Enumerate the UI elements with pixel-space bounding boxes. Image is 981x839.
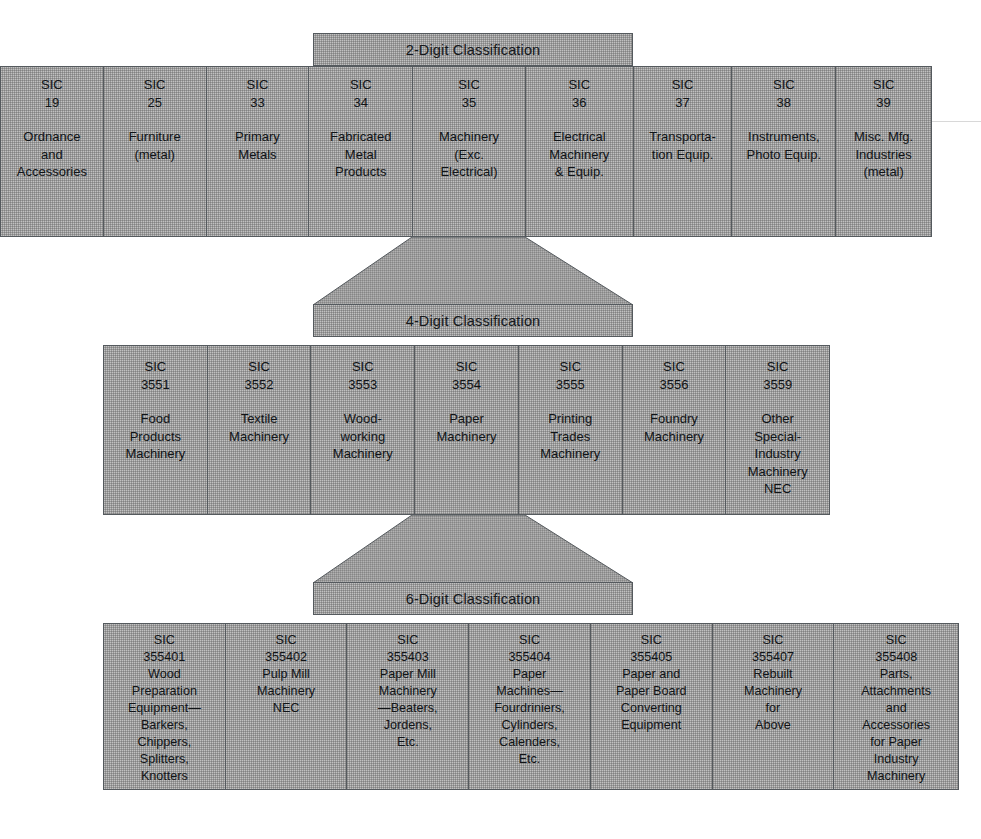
sic-code: SIC 19 (1, 76, 103, 111)
sic-code: SIC 355407 (713, 632, 834, 666)
sic-name: Electrical Machinery & Equip. (526, 128, 633, 181)
connector-4digit-to-6digit (313, 515, 633, 583)
sic-name: Misc. Mfg. Industries (metal) (836, 128, 931, 181)
sic-name: Pulp Mill Machinery NEC (226, 666, 347, 717)
sic-name: Other Special- Industry Machinery NEC (726, 410, 829, 498)
sic-code: SIC 34 (309, 76, 412, 111)
cell-sic-355402[interactable]: SIC 355402 Pulp Mill Machinery NEC (226, 624, 348, 789)
sic-code: SIC 3552 (208, 358, 311, 393)
sic-name: Furniture (metal) (104, 128, 206, 163)
banner-2-digit-classification: 2-Digit Classification (313, 33, 633, 66)
sic-name: Paper Machines— Fourdriniers, Cylinders,… (469, 666, 590, 768)
banner-label: 4-Digit Classification (406, 313, 541, 329)
sic-code: SIC 3553 (311, 358, 414, 393)
sic-code: SIC 355408 (834, 632, 958, 666)
banner-label: 6-Digit Classification (406, 591, 541, 607)
cell-sic-3554[interactable]: SIC 3554 Paper Machinery (415, 346, 519, 514)
sic-name: Wood- working Machinery (311, 410, 414, 463)
row-6-digit-cells: SIC 355401 Wood Preparation Equipment— B… (103, 623, 959, 790)
cell-sic-35[interactable]: SIC 35 Machinery (Exc. Electrical) (413, 67, 526, 236)
sic-code: SIC 39 (836, 76, 931, 111)
sic-code: SIC 38 (732, 76, 835, 111)
sic-name: Food Products Machinery (104, 410, 207, 463)
sic-code: SIC 3554 (415, 358, 518, 393)
banner-4-digit-classification: 4-Digit Classification (313, 304, 633, 337)
sic-code: SIC 36 (526, 76, 633, 111)
banner-label: 2-Digit Classification (406, 42, 541, 58)
sic-classification-diagram: 2-Digit Classification SIC 19 Ordnance a… (0, 0, 981, 839)
sic-code: SIC 355405 (591, 632, 712, 666)
banner-6-digit-classification: 6-Digit Classification (313, 582, 633, 615)
cell-sic-355407[interactable]: SIC 355407 Rebuilt Machinery for Above (713, 624, 835, 789)
sic-name: Paper and Paper Board Converting Equipme… (591, 666, 712, 734)
sic-name: Textile Machinery (208, 410, 311, 445)
sic-name: Printing Trades Machinery (519, 410, 622, 463)
cell-sic-3559[interactable]: SIC 3559 Other Special- Industry Machine… (726, 346, 829, 514)
sic-code: SIC 3559 (726, 358, 829, 393)
cell-sic-355408[interactable]: SIC 355408 Parts, Attachments and Access… (834, 624, 958, 789)
sic-code: SIC 355401 (104, 632, 225, 666)
cell-sic-355401[interactable]: SIC 355401 Wood Preparation Equipment— B… (104, 624, 226, 789)
sic-code: SIC 355404 (469, 632, 590, 666)
sic-code: SIC 3556 (623, 358, 726, 393)
cell-sic-37[interactable]: SIC 37 Transporta- tion Equip. (634, 67, 733, 236)
cell-sic-355404[interactable]: SIC 355404 Paper Machines— Fourdriniers,… (469, 624, 591, 789)
cell-sic-33[interactable]: SIC 33 Primary Metals (207, 67, 310, 236)
sic-name: Ordnance and Accessories (1, 128, 103, 181)
cell-sic-355403[interactable]: SIC 355403 Paper Mill Machinery —Beaters… (347, 624, 469, 789)
sic-name: Instruments, Photo Equip. (732, 128, 835, 163)
cell-sic-3556[interactable]: SIC 3556 Foundry Machinery (623, 346, 727, 514)
sic-code: SIC 37 (634, 76, 732, 111)
cell-sic-3551[interactable]: SIC 3551 Food Products Machinery (104, 346, 208, 514)
sic-name: Primary Metals (207, 128, 309, 163)
cell-sic-3555[interactable]: SIC 3555 Printing Trades Machinery (519, 346, 623, 514)
cell-sic-39[interactable]: SIC 39 Misc. Mfg. Industries (metal) (836, 67, 931, 236)
cell-sic-36[interactable]: SIC 36 Electrical Machinery & Equip. (526, 67, 634, 236)
sic-code: SIC 33 (207, 76, 309, 111)
sic-name: Paper Machinery (415, 410, 518, 445)
cell-sic-19[interactable]: SIC 19 Ordnance and Accessories (1, 67, 104, 236)
sic-code: SIC 355402 (226, 632, 347, 666)
sic-code: SIC 3551 (104, 358, 207, 393)
sic-name: Foundry Machinery (623, 410, 726, 445)
sic-code: SIC 3555 (519, 358, 622, 393)
scan-artifact-line (932, 121, 981, 122)
sic-name: Fabricated Metal Products (309, 128, 412, 181)
sic-code: SIC 35 (413, 76, 525, 111)
connector-2digit-to-4digit (313, 237, 633, 305)
cell-sic-3553[interactable]: SIC 3553 Wood- working Machinery (311, 346, 415, 514)
sic-name: Machinery (Exc. Electrical) (413, 128, 525, 181)
sic-code: SIC 355403 (347, 632, 468, 666)
sic-name: Transporta- tion Equip. (634, 128, 732, 163)
sic-name: Wood Preparation Equipment— Barkers, Chi… (104, 666, 225, 785)
row-2-digit-cells: SIC 19 Ordnance and Accessories SIC 25 F… (0, 66, 932, 237)
cell-sic-3552[interactable]: SIC 3552 Textile Machinery (208, 346, 312, 514)
sic-name: Rebuilt Machinery for Above (713, 666, 834, 734)
cell-sic-38[interactable]: SIC 38 Instruments, Photo Equip. (732, 67, 836, 236)
sic-name: Parts, Attachments and Accessories for P… (834, 666, 958, 785)
cell-sic-34[interactable]: SIC 34 Fabricated Metal Products (309, 67, 413, 236)
sic-name: Paper Mill Machinery —Beaters, Jordens, … (347, 666, 468, 751)
cell-sic-355405[interactable]: SIC 355405 Paper and Paper Board Convert… (591, 624, 713, 789)
cell-sic-25[interactable]: SIC 25 Furniture (metal) (104, 67, 207, 236)
sic-code: SIC 25 (104, 76, 206, 111)
row-4-digit-cells: SIC 3551 Food Products Machinery SIC 355… (103, 345, 830, 515)
